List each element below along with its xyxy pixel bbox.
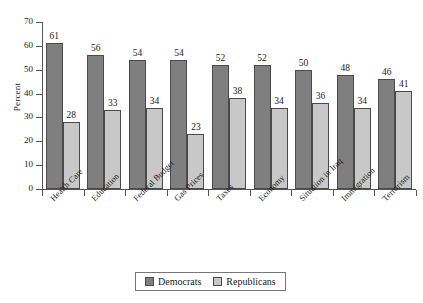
y-axis-tick-label: 50 xyxy=(24,64,33,74)
bar-democrats[interactable]: 54 xyxy=(129,60,146,189)
y-axis-tick-label: 0 xyxy=(29,183,34,193)
bar-democrats[interactable]: 50 xyxy=(295,70,312,189)
y-axis-tick: 20 xyxy=(36,141,42,142)
bar-value-label: 54 xyxy=(174,48,184,58)
bar-democrats[interactable]: 56 xyxy=(87,55,104,189)
y-axis-tick-label: 40 xyxy=(24,88,33,98)
bar-democrats[interactable]: 52 xyxy=(212,65,229,189)
x-axis-tick xyxy=(291,190,292,196)
bar-value-label: 23 xyxy=(191,122,201,132)
y-axis-tick: 50 xyxy=(36,70,42,71)
bar-group: 5238 xyxy=(212,22,246,189)
y-axis-tick: 60 xyxy=(36,46,42,47)
bar-value-label: 61 xyxy=(50,31,60,41)
y-axis-line xyxy=(42,22,43,190)
y-axis-tick-label: 60 xyxy=(24,40,33,50)
x-axis-tick xyxy=(374,190,375,196)
bar-value-label: 46 xyxy=(382,67,392,77)
bar-value-label: 50 xyxy=(299,58,309,68)
x-axis-tick xyxy=(42,190,43,196)
y-axis-title: Percent xyxy=(12,67,22,127)
y-axis-tick-label: 10 xyxy=(24,159,33,169)
x-axis-tick xyxy=(167,190,168,196)
y-axis-tick-label: 30 xyxy=(24,111,33,121)
legend-item[interactable]: Republicans xyxy=(213,276,275,287)
bar-group: 5036 xyxy=(295,22,329,189)
y-axis-tick-label: 20 xyxy=(24,135,33,145)
bar-value-label: 33 xyxy=(108,98,118,108)
bar-value-label: 52 xyxy=(257,53,267,63)
bar-value-label: 41 xyxy=(399,79,409,89)
bar-group: 5633 xyxy=(87,22,121,189)
bar-group: 5234 xyxy=(254,22,288,189)
y-axis-tick: 10 xyxy=(36,165,42,166)
chart-legend: DemocratsRepublicans xyxy=(135,272,286,291)
bar-value-label: 56 xyxy=(91,43,101,53)
bar-democrats[interactable]: 46 xyxy=(378,79,395,189)
legend-label: Republicans xyxy=(226,276,275,287)
x-axis-tick xyxy=(416,190,417,196)
x-axis-tick xyxy=(250,190,251,196)
bar-value-label: 48 xyxy=(340,63,350,73)
bar-democrats[interactable]: 54 xyxy=(170,60,187,189)
x-axis-tick xyxy=(208,190,209,196)
bar-group: 5434 xyxy=(129,22,163,189)
x-axis-tick xyxy=(84,190,85,196)
y-axis-tick: 70 xyxy=(36,22,42,23)
bar-group: 4641 xyxy=(378,22,412,189)
legend-swatch xyxy=(213,277,222,286)
legend-swatch xyxy=(145,277,154,286)
bar-democrats[interactable]: 48 xyxy=(337,75,354,190)
bar-value-label: 54 xyxy=(133,48,143,58)
x-axis-tick xyxy=(125,190,126,196)
bar-chart-figure: Percent 010203040506070 6128563354345423… xyxy=(0,0,423,303)
bar-value-label: 28 xyxy=(67,110,77,120)
bar-value-label: 34 xyxy=(274,96,284,106)
bar-value-label: 36 xyxy=(316,91,326,101)
y-axis-tick: 40 xyxy=(36,94,42,95)
x-axis-tick xyxy=(333,190,334,196)
plot-area: 010203040506070 612856335434542352385234… xyxy=(42,22,416,190)
legend-item[interactable]: Democrats xyxy=(145,276,201,287)
bar-value-label: 34 xyxy=(357,96,367,106)
bar-value-label: 52 xyxy=(216,53,226,63)
y-axis-tick-label: 70 xyxy=(24,16,33,26)
legend-label: Democrats xyxy=(158,276,201,287)
bar-democrats[interactable]: 52 xyxy=(254,65,271,189)
bar-republicans[interactable]: 38 xyxy=(229,98,246,189)
bar-value-label: 34 xyxy=(150,96,160,106)
bar-group: 6128 xyxy=(46,22,80,189)
y-axis-tick: 30 xyxy=(36,117,42,118)
bar-democrats[interactable]: 61 xyxy=(46,43,63,189)
bar-value-label: 38 xyxy=(233,86,243,96)
